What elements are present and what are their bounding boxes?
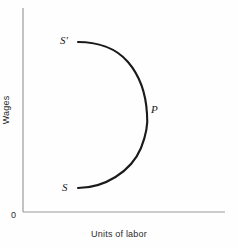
- curve-label-s-prime: S': [60, 34, 68, 46]
- x-axis-label: Units of labor: [0, 229, 238, 239]
- figure-container: Wages Units of labor 0 S' S P: [0, 0, 238, 249]
- y-axis-label: Wages: [1, 87, 11, 133]
- origin-label: 0: [11, 210, 16, 220]
- supply-curve-path: [78, 42, 147, 188]
- curve-label-p: P: [151, 103, 158, 115]
- curve-label-s: S: [62, 181, 68, 193]
- labor-supply-curve-plot: [0, 0, 238, 249]
